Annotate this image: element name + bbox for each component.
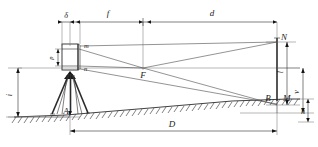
i-arrow-bottom bbox=[16, 112, 20, 117]
label-m: m bbox=[84, 42, 89, 49]
tripod-brace-right bbox=[74, 75, 78, 114]
ray-m-to-M bbox=[79, 49, 277, 105]
label-i: i bbox=[5, 94, 14, 96]
d-arrow-left bbox=[147, 20, 151, 24]
telescope bbox=[62, 22, 80, 70]
l-arrow-top bbox=[285, 42, 289, 47]
delta-arrow-left bbox=[58, 20, 62, 24]
ground-hatching-slope bbox=[72, 99, 298, 120]
h-arrow-top bbox=[306, 99, 310, 103]
p-arrow-bottom bbox=[56, 62, 59, 66]
label-M: M bbox=[282, 93, 291, 103]
label-v: v bbox=[292, 90, 301, 94]
label-h: h bbox=[301, 107, 305, 116]
label-p: p bbox=[47, 56, 54, 61]
label-n: n bbox=[84, 65, 87, 72]
left-dimension-chain: i bbox=[5, 68, 20, 117]
tripod bbox=[50, 71, 90, 114]
right-dimension-chain: l v h bbox=[276, 42, 314, 122]
D-arrow-right bbox=[272, 129, 277, 133]
label-B: B bbox=[265, 93, 271, 103]
label-D: D bbox=[168, 119, 176, 129]
delta-arrow-right bbox=[70, 20, 74, 24]
top-dimension-chain: δ f d bbox=[58, 8, 277, 26]
i-arrow-top bbox=[16, 68, 20, 73]
f-arrow-left bbox=[76, 20, 80, 24]
ray-n-to-N bbox=[79, 42, 277, 68]
point-labels: m n F A B M N bbox=[62, 32, 291, 116]
ray-lower-bound bbox=[80, 69, 277, 104]
instrument-dimension-p: p bbox=[47, 49, 62, 66]
v-arrow-top bbox=[301, 68, 305, 73]
optical-rays bbox=[79, 22, 277, 105]
label-delta: δ bbox=[64, 11, 68, 20]
label-f: f bbox=[107, 8, 111, 18]
f-arrow-right bbox=[139, 20, 143, 24]
diagram-root: δ f d D i p bbox=[0, 0, 318, 147]
label-N: N bbox=[280, 32, 288, 42]
d-arrow-right bbox=[273, 20, 277, 24]
p-arrow-top bbox=[56, 49, 59, 53]
optical-distance-diagram: δ f d D i p bbox=[0, 0, 318, 147]
bottom-dimension-chain: D bbox=[70, 113, 277, 135]
label-F: F bbox=[139, 70, 146, 80]
ray-upper-bound bbox=[80, 42, 277, 46]
D-arrow-left bbox=[70, 129, 75, 133]
label-d: d bbox=[210, 8, 215, 18]
